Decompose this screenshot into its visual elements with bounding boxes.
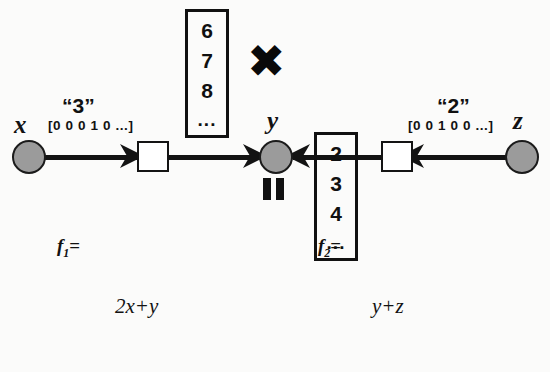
factor-label-f1: f1= <box>57 236 80 259</box>
product-operator-icon: ✖ <box>247 38 286 84</box>
message-bits-from-x: [0 0 0 1 0 ...] <box>48 119 134 133</box>
factor-label-f2: f2= <box>318 236 341 259</box>
vector-cell-ellipsis: ... <box>198 110 217 129</box>
variable-label-y: y <box>267 108 278 133</box>
variable-label-z: z <box>513 108 523 133</box>
variable-node-x[interactable] <box>12 140 46 174</box>
vector-cell: 8 <box>201 80 213 101</box>
factor-graph-diagram: x y z “3” [0 0 0 1 0 ...] “2” [0 0 1 0 0… <box>0 0 550 372</box>
vector-cell: 7 <box>201 50 213 71</box>
message-label-from-x: “3” <box>62 95 95 116</box>
message-bits-from-z: [0 0 1 0 0 ...] <box>408 119 494 133</box>
vector-cell: 3 <box>330 173 342 194</box>
message-label-from-z: “2” <box>437 95 470 116</box>
factor-label-f1-equals: = <box>69 235 80 256</box>
variable-label-x: x <box>14 112 27 137</box>
vector-cell: 2 <box>330 143 342 164</box>
variable-node-y[interactable] <box>259 140 293 174</box>
factor-caption-f2: y+z <box>372 296 404 317</box>
vector-left-incoming: 6 7 8 ... <box>185 12 229 135</box>
equals-marker-icon <box>263 178 284 200</box>
factor-caption-f1: 2x+y <box>115 296 158 317</box>
factor-label-f2-equals: = <box>330 235 341 256</box>
vector-cell: 6 <box>201 20 213 41</box>
factor-node-f2[interactable] <box>381 141 413 172</box>
vector-cell: 4 <box>330 203 342 224</box>
factor-node-f1[interactable] <box>137 141 169 172</box>
edge-z-to-f2 <box>411 155 506 160</box>
variable-node-z[interactable] <box>505 140 539 174</box>
